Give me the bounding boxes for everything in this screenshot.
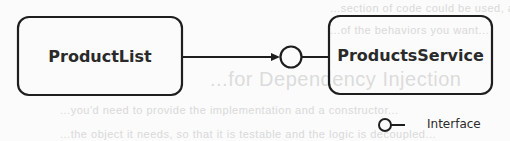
product-list-label: ProductList — [18, 17, 182, 95]
arrowhead-icon — [271, 53, 280, 61]
legend-interface-label: Interface — [427, 117, 481, 131]
products-service-label: ProductsService — [329, 16, 492, 94]
interface-circle-icon — [281, 47, 302, 68]
lollipop-interface-icon — [379, 119, 391, 131]
